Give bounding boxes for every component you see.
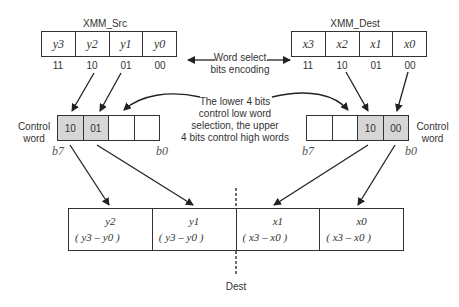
control-word-right: 10 00 [306, 115, 409, 141]
dest-cell-1: x1 [360, 32, 394, 56]
dest-register: x3 x2 x1 x0 [291, 31, 427, 57]
arrow-ctrl-to-dest-1 [274, 145, 368, 205]
arrow-src-01 [100, 73, 121, 111]
word-select-line-2: bits encoding [200, 64, 280, 76]
src-encodings: 11 10 01 00 [41, 60, 177, 71]
note-line-4: 4 bits control high words [170, 132, 300, 144]
arrow-dest-00 [397, 72, 408, 111]
src-enc-3: 11 [41, 60, 75, 71]
dest-result-value-3: y2 [69, 215, 152, 227]
ctrl-left-cell-1 [109, 116, 135, 140]
ctrl-left-cell-0 [135, 116, 160, 140]
dest-result-cell-3: y2 ( y3 – y0 ) [69, 209, 153, 250]
dest-result-value-0: x0 [320, 215, 403, 227]
ctrl-right-cell-0: 00 [384, 116, 409, 140]
control-label-left-2: word [14, 133, 54, 145]
lower-upper-note: The lower 4 bits control low word select… [170, 96, 300, 144]
bit-b0-left: b0 [156, 144, 168, 159]
ctrl-left-cell-2: 01 [84, 116, 110, 140]
dest-result-range-3: ( y3 – y0 ) [75, 231, 120, 243]
control-word-label-right: Control word [410, 121, 455, 145]
dest-cell-3: x3 [292, 32, 326, 56]
control-label-left-1: Control [14, 121, 54, 133]
bit-b0-right: b0 [405, 144, 417, 159]
dest-result-range-1: ( x3 – x0 ) [243, 231, 288, 243]
arrow-ctrl-to-dest-3 [70, 145, 109, 205]
arrow-src-10 [72, 73, 94, 111]
dest-result-range-0: ( x3 – x0 ) [326, 231, 371, 243]
ctrl-right-cell-2 [333, 116, 359, 140]
src-cell-2: y2 [76, 32, 110, 56]
dest-result-cell-0: x0 ( x3 – x0 ) [320, 209, 403, 250]
dest-result-register: y2 ( y3 – y0 ) y1 ( y3 – y0 ) x1 ( x3 – … [68, 208, 404, 251]
dest-result-value-2: y1 [153, 215, 236, 227]
bit-b7-right: b7 [302, 144, 314, 159]
src-cell-3: y3 [42, 32, 76, 56]
note-line-1: The lower 4 bits [170, 96, 300, 108]
dest-enc-3: 11 [291, 60, 325, 71]
control-word-left: 10 01 [57, 115, 160, 141]
src-enc-2: 10 [75, 60, 109, 71]
src-register: y3 y2 y1 y0 [41, 31, 177, 57]
dest-result-range-2: ( y3 – y0 ) [159, 231, 204, 243]
src-cell-1: y1 [110, 32, 144, 56]
dest-enc-0: 00 [393, 60, 427, 71]
pshufd-diagram: XMM_Src y3 y2 y1 y0 11 10 01 00 XMM_Dest… [0, 0, 459, 307]
dest-encodings: 11 10 01 00 [291, 60, 427, 71]
dest-enc-1: 01 [359, 60, 393, 71]
src-enc-0: 00 [143, 60, 177, 71]
dest-enc-2: 10 [325, 60, 359, 71]
arrow-ctrl-to-dest-2 [97, 145, 193, 205]
src-cell-0: y0 [143, 32, 176, 56]
dest-result-cell-2: y1 ( y3 – y0 ) [153, 209, 237, 250]
dest-cell-0: x0 [393, 32, 426, 56]
bit-b7-left: b7 [52, 144, 64, 159]
dest-result-cell-1: x1 ( x3 – x0 ) [237, 209, 321, 250]
src-register-title: XMM_Src [40, 18, 170, 30]
note-line-3: selection, the upper [170, 120, 300, 132]
dest-register-title: XMM_Dest [290, 18, 420, 30]
control-label-right-1: Control [410, 121, 455, 133]
dest-result-value-1: x1 [237, 215, 320, 227]
arrow-ctrl-to-dest-0 [358, 145, 395, 205]
dest-cell-2: x2 [326, 32, 360, 56]
ctrl-right-cell-3 [307, 116, 333, 140]
arrow-dest-10 [346, 72, 368, 111]
word-select-line-1: Word select [200, 52, 280, 64]
control-word-label-left: Control word [14, 121, 54, 145]
word-select-note: Word select bits encoding [200, 52, 280, 76]
dest-label: Dest [216, 281, 256, 293]
ctrl-left-cell-3: 10 [58, 116, 84, 140]
ctrl-right-cell-1: 10 [358, 116, 384, 140]
src-enc-1: 01 [109, 60, 143, 71]
note-line-2: control low word [170, 108, 300, 120]
